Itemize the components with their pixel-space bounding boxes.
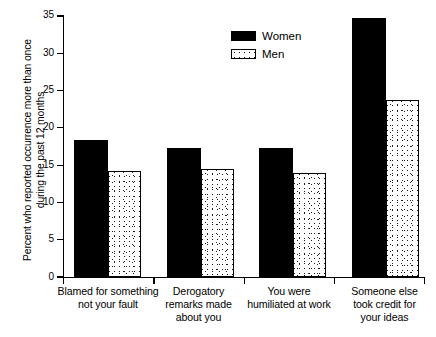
x-category-label-2: Derogatory remarks made about you <box>150 285 247 325</box>
bar-chart: Percent who reported occurrence more tha… <box>0 0 436 337</box>
legend-swatch-women-icon <box>231 31 256 41</box>
legend-item-women: Women <box>231 28 301 44</box>
bar-women-derogatory-remarks-made-about-you <box>167 148 201 277</box>
bar-men-someone-else-took-credit-for-your-ideas <box>386 100 419 277</box>
bar-men-you-were-humiliated-at-work <box>293 173 326 277</box>
bar-women-you-were-humiliated-at-work <box>259 148 293 277</box>
legend-label-women: Women <box>262 30 301 42</box>
bar-men-blamed-for-something-not-your-fault <box>108 171 141 277</box>
x-category-label-4: Someone else took credit for your ideas <box>337 285 432 325</box>
legend-label-men: Men <box>262 48 284 60</box>
bar-men-derogatory-remarks-made-about-you <box>201 169 234 277</box>
legend: Women Men <box>231 28 301 64</box>
legend-item-men: Men <box>231 46 301 62</box>
bar-women-blamed-for-something-not-your-fault <box>74 140 108 277</box>
x-category-label-3: You were humiliated at work <box>239 285 339 311</box>
x-category-label-1: Blamed for something not your fault <box>53 285 163 311</box>
bar-women-someone-else-took-credit-for-your-ideas <box>352 18 386 278</box>
legend-swatch-men-icon <box>231 49 256 59</box>
